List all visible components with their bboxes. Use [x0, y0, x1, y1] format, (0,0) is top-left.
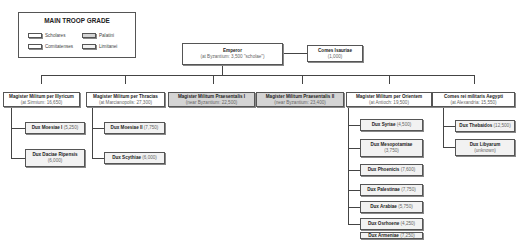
- legend-label-scholares: Scholares: [45, 33, 65, 38]
- node-title: Dux Palestinae: [367, 187, 400, 192]
- node-sub: (near Byzantium: 22,500): [186, 100, 238, 106]
- node-sub: (5,250): [64, 125, 79, 130]
- connector-branch: [11, 158, 25, 159]
- node-dux-scythiae: Dux Scythiae (6,000): [104, 152, 165, 164]
- node-sub: (7,250): [400, 233, 415, 238]
- node-sub: (3,750): [384, 148, 399, 154]
- connector-branch: [348, 207, 360, 208]
- node-magister-thracias: Magister Militum per Thracias (at Marcia…: [86, 92, 165, 107]
- connector-drop: [125, 75, 126, 84]
- node-sub: (12,500): [494, 123, 511, 128]
- node-dux-moesiae-2: Dux Moesiae II (7,750): [104, 122, 165, 134]
- node-sub: (4,250): [401, 221, 416, 226]
- connector-drop: [41, 75, 42, 84]
- node-magister-praesentalis-2: Magister Militum Praesentalis II (near B…: [256, 92, 344, 107]
- node-sub: (7,750): [144, 125, 159, 130]
- node-title: Dux Thebaidos: [459, 123, 492, 128]
- connector-magistri-bar: [41, 75, 474, 76]
- node-magister-praesentalis-1: Magister Militum Praesentalis I (near By…: [168, 92, 255, 107]
- node-dux-libyarum: Dux Libyarum (unknown): [455, 139, 515, 156]
- node-sub: (near Byzantium: 23,400): [274, 100, 326, 106]
- node-sub: (at Antioch: 19,500): [369, 100, 409, 106]
- connector-branch: [348, 224, 360, 225]
- node-sub: (at Marcianopolis: 27,300): [99, 100, 152, 106]
- legend-swatch-limitanei: [82, 44, 96, 49]
- connector-branch: [92, 158, 104, 159]
- connector-illyricum-trunk: [11, 104, 12, 158]
- node-dux-arabiae: Dux Arabiae (5,750): [360, 201, 423, 213]
- node-sub: (7,600): [401, 167, 416, 172]
- legend: MAIN TROOP GRADE Scholares Palatini Comi…: [18, 12, 136, 58]
- legend-swatch-palatini: [82, 33, 96, 38]
- legend-title: MAIN TROOP GRADE: [19, 17, 135, 24]
- connector-orientem-trunk: [348, 104, 349, 224]
- connector-branch: [443, 147, 455, 148]
- node-sub: (unknown): [474, 148, 495, 154]
- node-comes-isauriae: Comes Isauriae (1,000): [307, 45, 363, 62]
- node-dux-armeniae: Dux Armeniae (7,250): [360, 232, 423, 239]
- legend-label-limitanei: Limitanei: [99, 44, 117, 49]
- connector-emperor-down: [222, 65, 223, 75]
- connector-drop: [213, 75, 214, 84]
- node-dux-osrhoene: Dux Osrhoene (4,250): [360, 218, 423, 230]
- legend-swatch-comitatenses: [28, 44, 42, 49]
- node-sub: (at Sirmium: 16,650): [21, 100, 63, 106]
- legend-label-palatini: Palatini: [99, 33, 114, 38]
- node-sub: (4,500): [397, 122, 412, 127]
- connector-branch: [348, 190, 360, 191]
- node-title: Dux Phoenicis: [368, 167, 400, 172]
- node-title: Dux Osrhoene: [368, 221, 399, 226]
- connector-branch: [443, 126, 455, 127]
- node-dux-mesopotamiae: Dux Mesopotamiae (3,750): [360, 139, 423, 157]
- node-dux-daciae-ripensis: Dux Daciae Ripensis (6,000): [25, 149, 85, 167]
- legend-swatch-scholares: [28, 33, 42, 38]
- node-sub: (6,000): [142, 155, 157, 160]
- node-magister-illyricum: Magister Militum per Illyricum (at Sirmi…: [3, 92, 80, 107]
- node-magister-orientem: Magister Militum per Orientem (at Antioc…: [346, 92, 432, 107]
- node-dux-syriae: Dux Syriae (4,500): [360, 119, 423, 131]
- node-dux-phoenicis: Dux Phoenicis (7,600): [360, 164, 423, 176]
- connector-drop: [389, 75, 390, 84]
- node-sub: (6,000): [48, 158, 63, 164]
- connector-branch: [348, 125, 360, 126]
- connector-branch: [92, 128, 104, 129]
- node-sub: (1,000): [328, 54, 343, 60]
- node-title: Dux Moesiae II: [111, 125, 143, 130]
- node-sub: (at Byzantium: 3,500 "scholae"): [200, 54, 264, 60]
- node-dux-thebaidos: Dux Thebaidos (12,500): [455, 120, 515, 132]
- node-title: Dux Arabiae: [370, 204, 397, 209]
- node-comes-aegypti: Comes rei militaris Aegypti (at Alexandr…: [432, 92, 515, 107]
- connector-drop: [302, 75, 303, 84]
- connector-thracias-trunk: [92, 104, 93, 158]
- node-dux-moesiae-1: Dux Moesiae I (5,250): [25, 122, 85, 134]
- node-sub: (5,750): [398, 204, 413, 209]
- connector-branch: [11, 128, 25, 129]
- connector-emperor-isauriae: [283, 53, 307, 54]
- node-sub: (at Alexandria: 15,550): [450, 100, 496, 106]
- node-title: Dux Scythiae: [112, 155, 141, 160]
- connector-branch: [348, 170, 360, 171]
- node-title: Dux Moesiae I: [32, 125, 63, 130]
- node-title: Dux Armeniae: [368, 233, 399, 238]
- connector-branch: [348, 148, 360, 149]
- legend-label-comitatenses: Comitatenses: [45, 44, 73, 49]
- connector-drop: [474, 75, 475, 84]
- node-sub: (7,750): [401, 187, 416, 192]
- node-title: Dux Syriae: [372, 122, 396, 127]
- node-dux-palestinae: Dux Palestinae (7,750): [360, 184, 423, 196]
- node-emperor: Emperor (at Byzantium: 3,500 "scholae"): [182, 43, 283, 65]
